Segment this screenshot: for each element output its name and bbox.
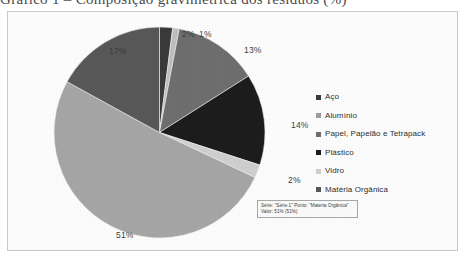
tooltip-value: Valor: 51% (51%) (261, 209, 354, 215)
pie-svg (53, 26, 266, 239)
document-text-fragment: Gráfico 1 – Composição gravimétrica dos … (0, 0, 465, 7)
legend-item-label: Papel, Papelão e Tetrapack (325, 130, 425, 138)
pie-slice-percent-label: 2% (182, 29, 195, 39)
legend-swatch-icon (316, 113, 321, 118)
legend-item[interactable]: Plástico (316, 144, 456, 163)
pie-slice-percent-label: 17% (109, 46, 127, 56)
pie-slice-percent-label: 1% (199, 29, 212, 39)
legend-swatch-icon (316, 95, 321, 100)
pie-chart (53, 26, 266, 239)
pie-slice-percent-label: 2% (288, 175, 301, 185)
chart-legend: AçoAlumínioPapel, Papelão e TetrapackPlá… (316, 88, 456, 199)
legend-item-label: Matéria Orgânica (325, 186, 388, 194)
chart-tooltip: Série: "Série 1" Ponto: "Matéria Orgânic… (257, 200, 358, 218)
legend-item-label: Alumínio (325, 112, 357, 120)
legend-item[interactable]: Matéria Orgânica (316, 181, 456, 200)
legend-item[interactable]: Vidro (316, 162, 456, 181)
legend-swatch-icon (316, 132, 321, 137)
legend-item[interactable]: Aço (316, 88, 456, 107)
legend-swatch-icon (316, 187, 321, 192)
pie-slice-percent-label: 14% (291, 120, 309, 130)
pie-slices (54, 27, 265, 238)
legend-item-label: Plástico (325, 149, 354, 157)
pie-slice-percent-label: 51% (116, 230, 134, 240)
legend-swatch-icon (316, 150, 321, 155)
legend-item-label: Aço (325, 93, 339, 101)
legend-item[interactable]: Papel, Papelão e Tetrapack (316, 125, 456, 144)
legend-item[interactable]: Alumínio (316, 107, 456, 126)
pie-slice-percent-label: 13% (244, 45, 262, 55)
legend-swatch-icon (316, 169, 321, 174)
legend-item-label: Vidro (325, 167, 344, 175)
chart-panel: 2%1%13%14%2%17%51% AçoAlumínioPapel, Pap… (7, 11, 458, 251)
